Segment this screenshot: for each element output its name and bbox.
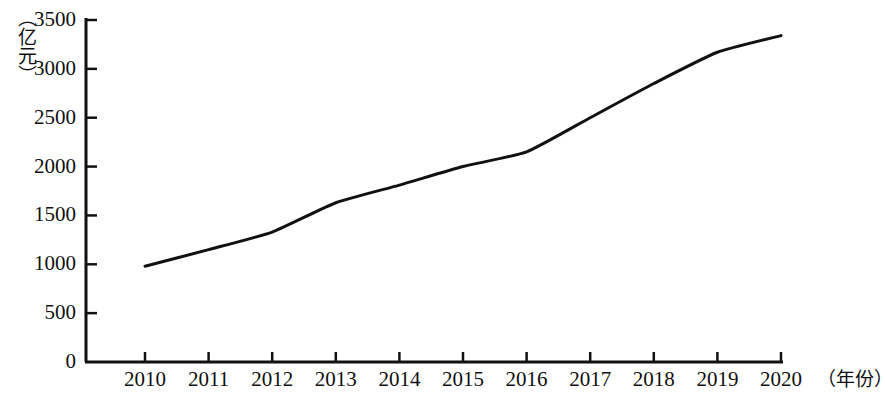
y-axis-tick-label: 2000 — [14, 156, 76, 177]
y-axis — [86, 18, 97, 362]
x-axis-tick-label: 2015 — [431, 368, 495, 390]
y-axis-tick-label: 1000 — [14, 253, 76, 274]
x-axis-unit-label: （年份） — [817, 368, 885, 390]
y-axis-tick-label: 500 — [14, 302, 76, 323]
x-axis-tick-label: 2018 — [622, 368, 686, 390]
y-axis-tick-label: 3000 — [14, 58, 76, 79]
y-axis-tick-label: 0 — [14, 351, 76, 372]
x-axis-tick-label: 2017 — [558, 368, 622, 390]
x-axis-tick-label: 2016 — [495, 368, 559, 390]
y-axis-tick-label: 1500 — [14, 204, 76, 225]
x-axis — [85, 352, 783, 362]
x-axis-tick-label: 2013 — [304, 368, 368, 390]
x-axis-tick-label: 2011 — [177, 368, 241, 390]
x-axis-tick-label: 2019 — [685, 368, 749, 390]
x-axis-tick-label: 2010 — [113, 368, 177, 390]
y-axis-tick-marks — [86, 20, 97, 313]
x-axis-tick-label: 2020 — [749, 368, 813, 390]
x-axis-tick-label: 2012 — [240, 368, 304, 390]
data-series-line — [145, 36, 781, 267]
y-axis-tick-label: 2500 — [14, 107, 76, 128]
x-axis-tick-label: 2014 — [367, 368, 431, 390]
y-axis-tick-label: 3500 — [14, 9, 76, 30]
